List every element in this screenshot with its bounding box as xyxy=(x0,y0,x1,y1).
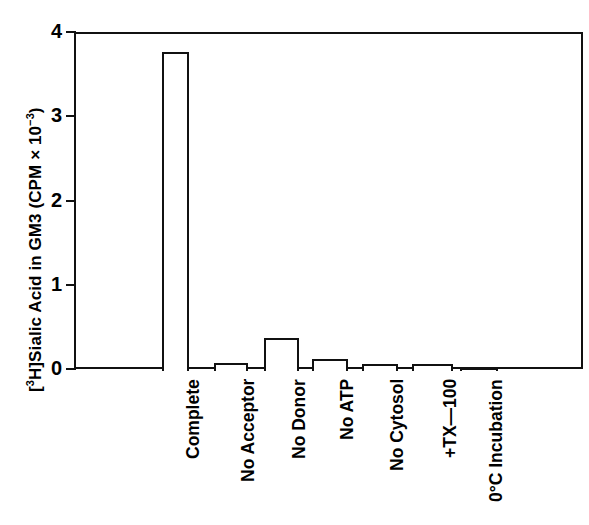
y-axis-title-prefix: [ xyxy=(26,386,45,392)
x-axis-category-label: Complete xyxy=(183,379,204,459)
bar xyxy=(412,364,453,371)
x-axis-category-label: No Acceptor xyxy=(238,379,259,482)
y-axis-tick-label: 3 xyxy=(40,105,62,125)
x-axis-category-label: No Cytosol xyxy=(387,379,408,471)
bar xyxy=(162,52,189,371)
y-axis-tick-label: 2 xyxy=(40,190,62,210)
bar xyxy=(312,359,348,371)
bar xyxy=(362,364,398,371)
y-axis-title: [3H]Sialic Acid in GM3 (CPM × 10−3) xyxy=(26,107,46,392)
x-axis-category-label: No ATP xyxy=(337,379,358,440)
y-axis-tick-label: 0 xyxy=(40,358,62,378)
y-axis-tick-label: 4 xyxy=(40,21,62,41)
y-axis-title-container: [3H]Sialic Acid in GM3 (CPM × 10−3) xyxy=(0,0,34,400)
bar-chart-figure: [3H]Sialic Acid in GM3 (CPM × 10−3) 0123… xyxy=(0,0,589,525)
y-axis-title-main: H]Sialic Acid in GM3 (CPM × 10 xyxy=(26,126,45,380)
bar xyxy=(460,368,498,371)
bar xyxy=(264,338,299,371)
x-axis-category-label: +TX—100 xyxy=(440,379,461,458)
y-axis-tick-label: 1 xyxy=(40,274,62,294)
y-axis-title-isotope-superscript: 3 xyxy=(24,380,36,386)
bar xyxy=(214,363,248,371)
x-axis-category-label: No Donor xyxy=(289,379,310,459)
x-axis-category-label: 0°C Incubation xyxy=(486,379,507,502)
y-axis-title-exponent-superscript: −3 xyxy=(24,113,36,126)
plot-area xyxy=(74,32,583,369)
